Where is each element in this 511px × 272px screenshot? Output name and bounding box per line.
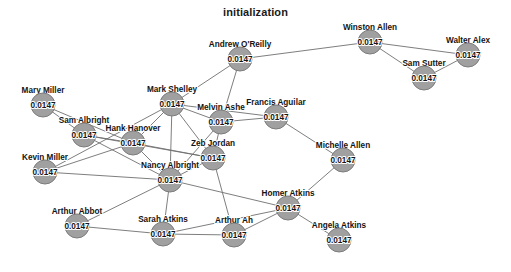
graph-edge xyxy=(45,172,170,180)
node-value: 0.0147 xyxy=(227,55,252,64)
graph-node[interactable]: Winston Allen0.0147 xyxy=(343,23,397,54)
node-value: 0.0147 xyxy=(120,139,145,148)
node-value: 0.0147 xyxy=(32,168,57,177)
network-graph-canvas: initialization Andrew O'Reilly0.0147Wins… xyxy=(0,0,511,272)
node-value: 0.0147 xyxy=(275,204,300,213)
graph-node[interactable]: Andrew O'Reilly0.0147 xyxy=(209,40,272,71)
graph-node[interactable]: Michelle Allen0.0147 xyxy=(316,141,370,172)
graph-node[interactable]: Walter Alex0.0147 xyxy=(446,36,490,67)
node-value: 0.0147 xyxy=(208,118,233,127)
graph-node[interactable]: Homer Atkins0.0147 xyxy=(262,189,315,220)
node-value: 0.0147 xyxy=(326,236,351,245)
node-value: 0.0147 xyxy=(157,176,182,185)
node-value: 0.0147 xyxy=(455,51,480,60)
node-value: 0.0147 xyxy=(200,154,225,163)
graph-node[interactable]: Nancy Albright0.0147 xyxy=(141,161,199,192)
node-value: 0.0147 xyxy=(263,113,288,122)
node-value: 0.0147 xyxy=(64,222,89,231)
node-value: 0.0147 xyxy=(330,156,355,165)
node-value: 0.0147 xyxy=(71,131,96,140)
node-value: 0.0147 xyxy=(411,74,436,83)
graph-node[interactable]: Sam Sutter0.0147 xyxy=(402,59,446,90)
graph-node[interactable]: Arthur Abbot0.0147 xyxy=(52,207,103,238)
node-value: 0.0147 xyxy=(150,230,175,239)
graph-node[interactable]: Kevin Miller0.0147 xyxy=(22,153,69,184)
node-value: 0.0147 xyxy=(357,38,382,47)
edge-layer xyxy=(43,42,468,240)
graph-node[interactable]: Angela Atkins0.0147 xyxy=(312,221,367,252)
graph-node[interactable]: Melvin Ashe0.0147 xyxy=(197,103,245,134)
graph-node[interactable]: Sam Albright0.0147 xyxy=(59,116,110,147)
graph-node[interactable]: Francis Aguilar0.0147 xyxy=(246,98,306,129)
node-value: 0.0147 xyxy=(159,100,184,109)
node-value: 0.0147 xyxy=(30,101,55,110)
graph-node[interactable]: Mark Shelley0.0147 xyxy=(147,85,198,116)
graph-node[interactable]: Arthur Ah0.0147 xyxy=(215,216,253,247)
node-value: 0.0147 xyxy=(221,231,246,240)
network-graph: Andrew O'Reilly0.0147Winston Allen0.0147… xyxy=(0,0,511,272)
graph-node[interactable]: Mary Miller0.0147 xyxy=(22,86,66,117)
